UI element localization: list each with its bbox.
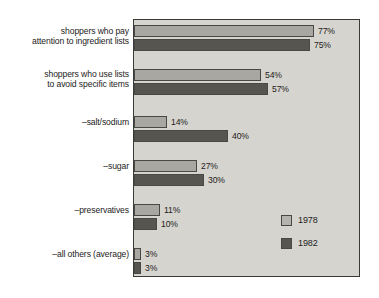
category-label-1: shoppers who use lists to avoid specific… — [0, 69, 129, 90]
bar-value-1978-1: 54% — [265, 69, 282, 81]
legend-swatch-1978-icon — [281, 215, 292, 226]
bar-1978-0 — [134, 25, 314, 37]
bar-value-1978-4: 11% — [164, 204, 180, 216]
bar-value-1978-3: 27% — [201, 160, 218, 172]
category-label-3: –sugar — [0, 161, 129, 171]
bar-1982-4 — [134, 218, 157, 230]
bar-value-1978-2: 14% — [171, 116, 188, 128]
bar-1982-0 — [134, 39, 310, 51]
category-label-2: –salt/sodium — [0, 117, 129, 127]
category-label-0: shoppers who pay attention to ingredient… — [0, 26, 129, 47]
bar-1978-1 — [134, 69, 261, 81]
bar-1982-3 — [134, 174, 204, 186]
category-label-4: –preservatives — [0, 205, 129, 215]
bar-1978-2 — [134, 116, 167, 128]
bar-chart: shoppers who pay attention to ingredient… — [0, 0, 379, 298]
bar-value-1982-4: 10% — [161, 218, 178, 230]
bar-1982-2 — [134, 130, 228, 142]
bars-layer: 77% 75% 54% 57% 14% 40% 27% 30% 11% 10% … — [134, 20, 359, 276]
legend-swatch-1982-icon — [281, 238, 292, 249]
legend-label-1978: 1978 — [298, 215, 318, 225]
legend: 1978 1982 — [281, 211, 318, 257]
bar-1982-5 — [134, 262, 141, 274]
bar-1978-3 — [134, 160, 197, 172]
bar-1982-1 — [134, 83, 268, 95]
bar-value-1982-5: 3% — [145, 262, 157, 274]
bar-value-1978-0: 77% — [318, 25, 335, 37]
category-label-column: shoppers who pay attention to ingredient… — [0, 19, 129, 277]
legend-entry-1978: 1978 — [281, 211, 318, 229]
bar-1978-5 — [134, 248, 141, 260]
legend-entry-1982: 1982 — [281, 234, 318, 252]
bar-value-1982-2: 40% — [232, 130, 249, 142]
category-label-5: –all others (average) — [0, 249, 129, 259]
legend-label-1982: 1982 — [298, 238, 318, 248]
bar-value-1982-0: 75% — [314, 39, 331, 51]
bar-value-1982-1: 57% — [272, 83, 289, 95]
bar-1978-4 — [134, 204, 160, 216]
bar-value-1978-5: 3% — [145, 248, 157, 260]
bar-value-1982-3: 30% — [208, 174, 225, 186]
